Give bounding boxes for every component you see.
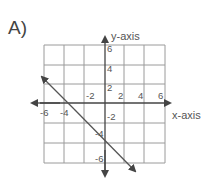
svg-text:-4: -4: [95, 128, 103, 139]
coordinate-plane: y-axis x-axis -6 -4 -2 2 4 6 6 4 2 -2 -4…: [0, 0, 208, 178]
svg-text:-6: -6: [40, 107, 48, 118]
x-axis-label: x-axis: [172, 109, 201, 121]
svg-text:4: 4: [107, 63, 112, 74]
svg-text:2: 2: [118, 90, 123, 101]
svg-text:-2: -2: [86, 90, 94, 101]
svg-text:-6: -6: [95, 153, 103, 164]
svg-text:-4: -4: [60, 107, 68, 118]
svg-text:6: 6: [107, 43, 112, 54]
svg-text:2: 2: [107, 82, 112, 93]
y-axis-label: y-axis: [111, 30, 140, 42]
svg-text:4: 4: [138, 90, 143, 101]
svg-text:6: 6: [158, 90, 163, 101]
svg-text:-2: -2: [107, 111, 115, 122]
